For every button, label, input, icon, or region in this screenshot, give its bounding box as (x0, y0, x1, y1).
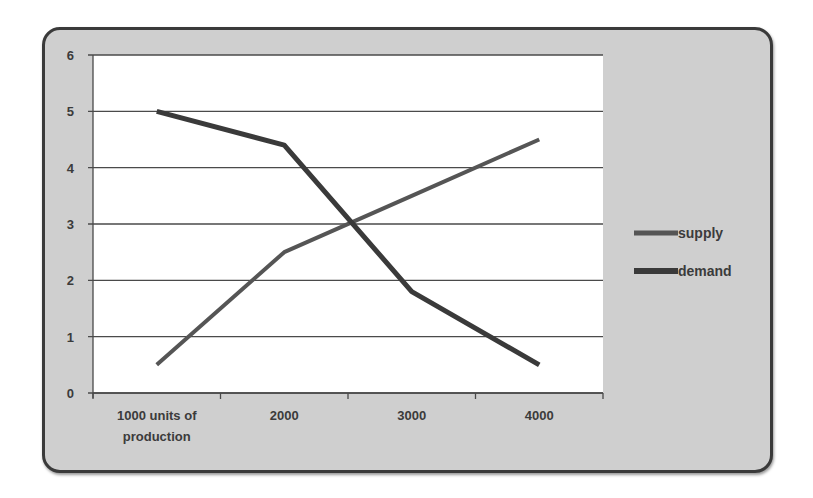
x-tick-label: 4000 (525, 408, 554, 423)
x-tick-label: 3000 (397, 408, 426, 423)
x-tick-label: 1000 units of (117, 408, 197, 423)
y-tick-label: 4 (67, 161, 75, 176)
y-tick-label: 2 (67, 273, 74, 288)
supply-legend-label: supply (678, 225, 723, 241)
demand-legend-label: demand (678, 263, 732, 279)
y-tick-label: 1 (67, 330, 74, 345)
line-chart: 01234561000 units ofproduction2000300040… (0, 0, 813, 498)
x-tick-label: production (123, 429, 191, 444)
y-tick-label: 3 (67, 217, 74, 232)
y-tick-label: 6 (67, 48, 74, 63)
y-tick-label: 0 (67, 386, 74, 401)
x-tick-label: 2000 (270, 408, 299, 423)
y-tick-label: 5 (67, 104, 74, 119)
